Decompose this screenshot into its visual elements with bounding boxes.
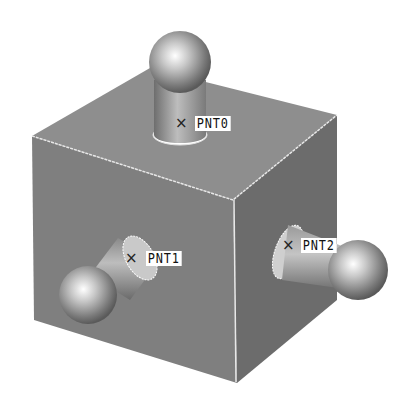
- point-label-pnt0[interactable]: PNT0: [195, 116, 230, 131]
- cad-viewport: × PNT0 × PNT1 × PNT2: [0, 0, 415, 406]
- point-marker-pnt1-icon: ×: [125, 251, 138, 266]
- point-label-pnt1[interactable]: PNT1: [146, 251, 181, 266]
- point-marker-pnt2-icon: ×: [282, 238, 295, 253]
- point-marker-pnt0-icon: ×: [175, 116, 188, 131]
- cube-model: [0, 0, 415, 406]
- point-label-pnt2[interactable]: PNT2: [301, 238, 336, 253]
